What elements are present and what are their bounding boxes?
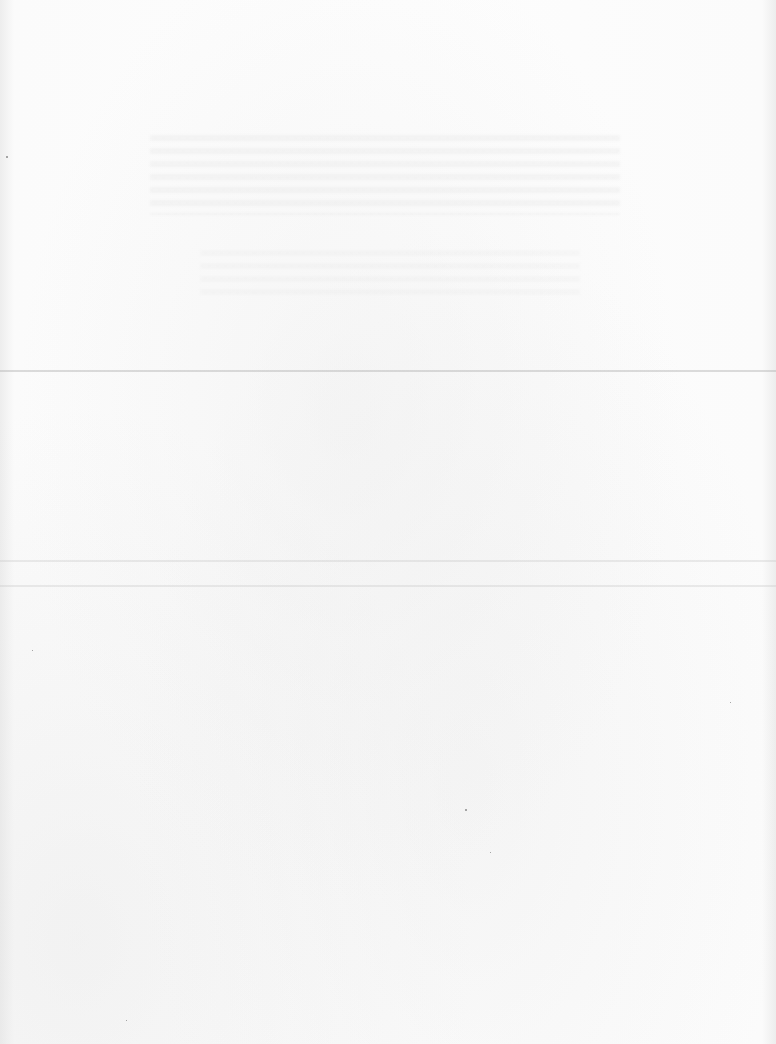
scan-speck (126, 1020, 127, 1021)
fold-line (0, 585, 776, 587)
scan-speck (730, 702, 731, 703)
scan-speck (6, 156, 8, 158)
scanned-page (0, 0, 776, 1044)
fold-line (0, 370, 776, 372)
bleed-through-region (200, 250, 580, 300)
fold-line (0, 560, 776, 562)
bleed-through-region (150, 135, 620, 215)
scan-speck (465, 809, 467, 811)
scan-speck (490, 852, 491, 853)
scan-speck (32, 650, 33, 651)
